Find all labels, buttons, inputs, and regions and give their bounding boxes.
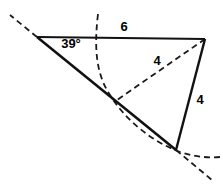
side-length-label-right: 4: [196, 92, 204, 107]
angle-label-39deg: 39°: [61, 36, 81, 51]
geometry-diagram: 39° 6 4 4: [0, 0, 223, 192]
side-length-label-top: 6: [120, 19, 127, 34]
geometry-figure-root: 39° 6 4 4: [0, 0, 223, 192]
side-length-label-dashed: 4: [153, 53, 161, 68]
